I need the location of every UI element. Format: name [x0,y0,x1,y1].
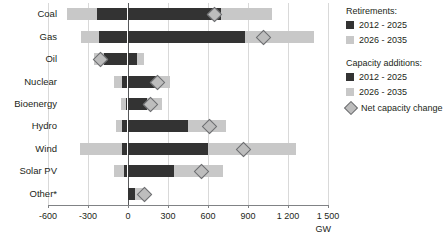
legend-item-additions-2026-2035: 2026 - 2035 [346,87,447,97]
category-label-oil: Oil [0,53,57,65]
legend-swatch-dark-icon [346,21,354,29]
legend-item-retirements-2012-2025: 2012 - 2025 [346,20,447,30]
legend-label: 2012 - 2025 [359,20,407,30]
bar-additions-2012-2025-wind [128,143,208,155]
legend-retirements-title: Retirements: [346,6,447,16]
category-label-hydro: Hydro [0,120,57,132]
gridline [328,3,329,205]
x-axis-tick-label: 1 500 [303,211,353,222]
legend-item-additions-2012-2025: 2012 - 2025 [346,72,447,82]
diamond-marker-icon [344,101,358,115]
legend-label: 2026 - 2035 [359,87,407,97]
category-label-nuclear: Nuclear [0,76,57,88]
category-label-coal: Coal [0,8,57,20]
chart-legend: Retirements: 2012 - 2025 2026 - 2035 Cap… [346,6,447,118]
bar-retirements-2026-2035-coal [67,8,98,20]
legend-swatch-light-icon [346,88,354,96]
legend-label: 2012 - 2025 [359,72,407,82]
legend-swatch-dark-icon [346,73,354,81]
capacity-change-chart: -600-30003006009001 2001 500GWCoalGasOil… [0,0,447,242]
bar-additions-2012-2025-oil [128,53,137,65]
x-axis-tick [328,205,329,208]
x-axis-unit-label: GW [316,224,332,234]
bar-retirements-2012-2025-bioenergy [126,98,127,110]
legend-additions-title: Capacity additions: [346,58,447,68]
category-label-other: Other* [0,188,57,200]
bar-retirements-2012-2025-nuclear [122,76,127,88]
legend-item-retirements-2026-2035: 2026 - 2035 [346,35,447,45]
legend-label: Net capacity change [361,103,443,113]
bar-retirements-2026-2035-gas [81,31,99,43]
legend-spacer [346,50,447,58]
bar-additions-2026-2035-wind [208,143,296,155]
plot-area: -600-30003006009001 2001 500GWCoalGasOil… [0,0,340,242]
bar-additions-2026-2035-oil [137,53,144,65]
legend-label: 2026 - 2035 [359,35,407,45]
category-label-bioenergy: Bioenergy [0,98,57,110]
bar-additions-2012-2025-hydro [128,120,188,132]
bar-retirements-2012-2025-solar_pv [124,165,127,177]
bar-additions-2012-2025-other [128,188,135,200]
bar-retirements-2012-2025-gas [99,31,127,43]
bar-retirements-2012-2025-wind [122,143,127,155]
legend-item-net-capacity-change: Net capacity change [346,103,447,113]
category-label-gas: Gas [0,31,57,43]
bar-retirements-2026-2035-wind [80,143,122,155]
bar-retirements-2012-2025-hydro [122,120,127,132]
category-label-wind: Wind [0,143,57,155]
x-axis-line [48,205,328,206]
bar-additions-2012-2025-gas [128,31,245,43]
bar-additions-2012-2025-solar_pv [128,165,174,177]
legend-swatch-light-icon [346,36,354,44]
category-label-solar_pv: Solar PV [0,165,57,177]
bar-retirements-2012-2025-coal [97,8,127,20]
bar-additions-2026-2035-coal [221,8,272,20]
